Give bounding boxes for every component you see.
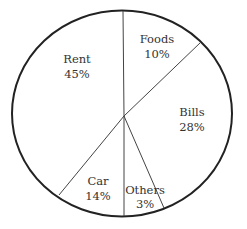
slice-value: 14%	[85, 189, 111, 203]
slice-label-rent: Rent 45%	[63, 52, 91, 81]
slice-label-bills: Bills 28%	[179, 105, 205, 134]
slice-name: Bills	[179, 105, 204, 119]
slice-value: 45%	[64, 67, 90, 81]
slice-value: 10%	[144, 47, 170, 61]
slice-name: Car	[87, 174, 109, 188]
slice-value: 28%	[179, 120, 205, 134]
slice-name: Others	[125, 183, 165, 197]
slice-name: Rent	[63, 52, 91, 66]
slice-label-foods: Foods 10%	[140, 32, 175, 61]
slice-name: Foods	[140, 32, 175, 46]
slice-value: 3%	[136, 197, 154, 211]
slice-label-car: Car 14%	[85, 174, 111, 203]
pie-chart: Rent 45% Foods 10% Bills 28% Others 3% C…	[0, 0, 247, 229]
